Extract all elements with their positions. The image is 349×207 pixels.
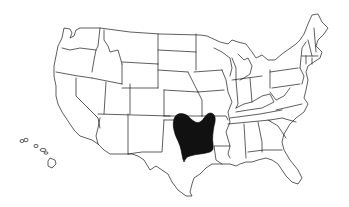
- us-outline: [54, 14, 328, 196]
- us-map-svg: [0, 0, 349, 207]
- us-map: [0, 0, 349, 207]
- hawaii-inset: [20, 138, 56, 168]
